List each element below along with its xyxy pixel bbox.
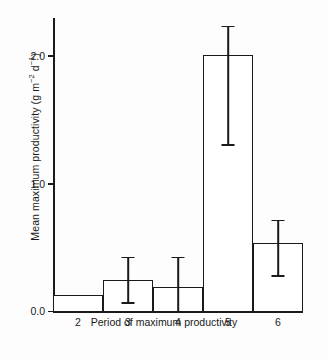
y-axis-tick	[48, 55, 53, 57]
error-bar-stem	[127, 257, 129, 304]
error-bar	[103, 257, 153, 304]
error-bar-cap-lower	[122, 302, 135, 304]
bar	[53, 295, 103, 312]
error-bar-cap-upper	[172, 257, 185, 259]
y-axis-tick-label: 2.0	[30, 51, 45, 62]
error-bar	[203, 26, 253, 146]
y-axis-title-prefix: Mean maximum productivity (g m	[29, 83, 41, 241]
error-bar	[253, 220, 303, 277]
plot-area: 0.01.02.0 23456	[53, 18, 303, 313]
error-bar-stem	[227, 26, 229, 146]
chart-figure: Mean maximum productivity (g m−2 d−1) 0.…	[0, 0, 328, 360]
y-axis-line	[53, 18, 55, 313]
y-axis-tick-label: 1.0	[30, 179, 45, 190]
error-bar-cap-upper	[122, 257, 135, 259]
error-bar	[153, 257, 203, 312]
x-axis-line	[53, 311, 303, 313]
y-axis-tick	[48, 183, 53, 185]
y-axis-title-exponent-area: −2	[27, 74, 36, 83]
y-axis-title-mid: d	[29, 65, 41, 74]
error-bar-stem	[177, 257, 179, 312]
error-bar-cap-lower	[272, 275, 285, 277]
error-bar-stem	[277, 220, 279, 277]
error-bar-cap-upper	[272, 220, 285, 222]
error-bar-cap-lower	[222, 144, 235, 146]
error-bar-cap-upper	[222, 26, 235, 28]
x-axis-title: Period of maximum productivity	[0, 316, 328, 328]
